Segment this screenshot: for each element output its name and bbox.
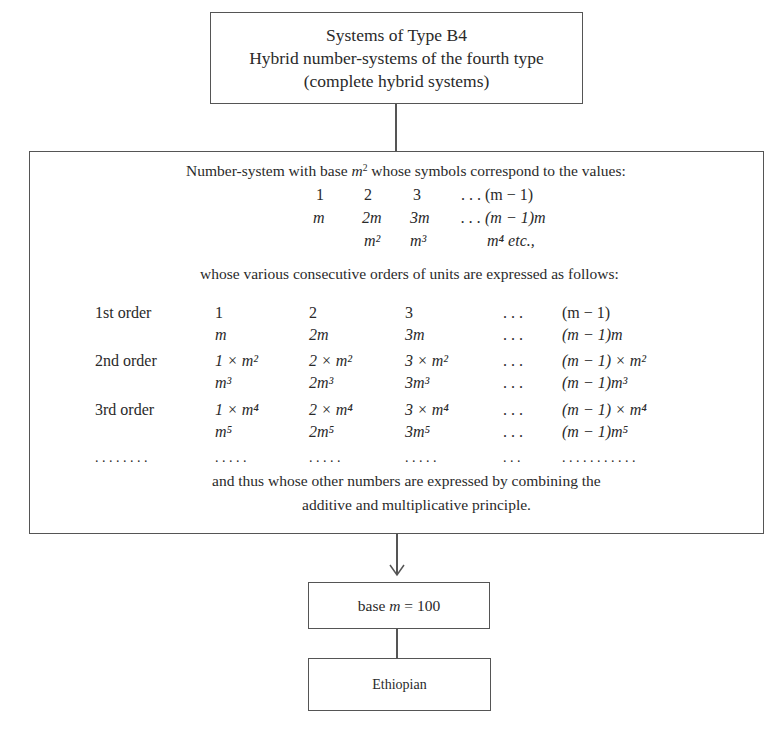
order-label: 3rd order [95, 401, 154, 419]
ethiopian-box: Ethiopian [308, 658, 491, 711]
arrow-down-icon [388, 563, 406, 577]
values-row: m² m³ m⁴ etc., [0, 232, 783, 252]
values-row: 1 2 3 . . . (m − 1) [0, 186, 783, 206]
order-row: m 2m 3m . . . (m − 1)m [0, 326, 783, 346]
values-row: m 2m 3m . . . (m − 1)m [0, 209, 783, 229]
base-variable: m [351, 162, 362, 179]
intro-text: Number-system with base m2 whose symbols… [186, 162, 626, 180]
ellipsis-row: . . . . . . . . . . . . . . . . . . . . … [0, 450, 783, 470]
order-row: 3rd order 1 × m⁴ 2 × m⁴ 3 × m⁴ . . . (m … [0, 401, 783, 421]
orders-intro: whose various consecutive orders of unit… [200, 265, 619, 283]
title-line-1: Systems of Type B4 [326, 24, 467, 47]
title-line-3: (complete hybrid systems) [304, 70, 490, 93]
base-variable: m [389, 597, 400, 615]
order-row: 1st order 1 2 3 . . . (m − 1) [0, 304, 783, 324]
connector-base-result [396, 629, 398, 658]
order-row: 2nd order 1 × m² 2 × m² 3 × m² . . . (m … [0, 352, 783, 372]
base-box: base m = 100 [308, 582, 490, 629]
title-box: Systems of Type B4 Hybrid number-systems… [210, 12, 583, 104]
result-label: Ethiopian [372, 677, 426, 693]
order-label: 1st order [95, 304, 151, 322]
conclusion-line-1: and thus whose other numbers are express… [212, 472, 601, 490]
conclusion-line-2: additive and multiplicative principle. [302, 496, 531, 514]
order-row: m³ 2m³ 3m³ . . . (m − 1)m³ [0, 374, 783, 394]
title-line-2: Hybrid number-systems of the fourth type [249, 47, 544, 70]
order-label: 2nd order [95, 352, 157, 370]
connector-title-main [395, 104, 397, 151]
order-row: m⁵ 2m⁵ 3m⁵ . . . (m − 1)m⁵ [0, 423, 783, 443]
